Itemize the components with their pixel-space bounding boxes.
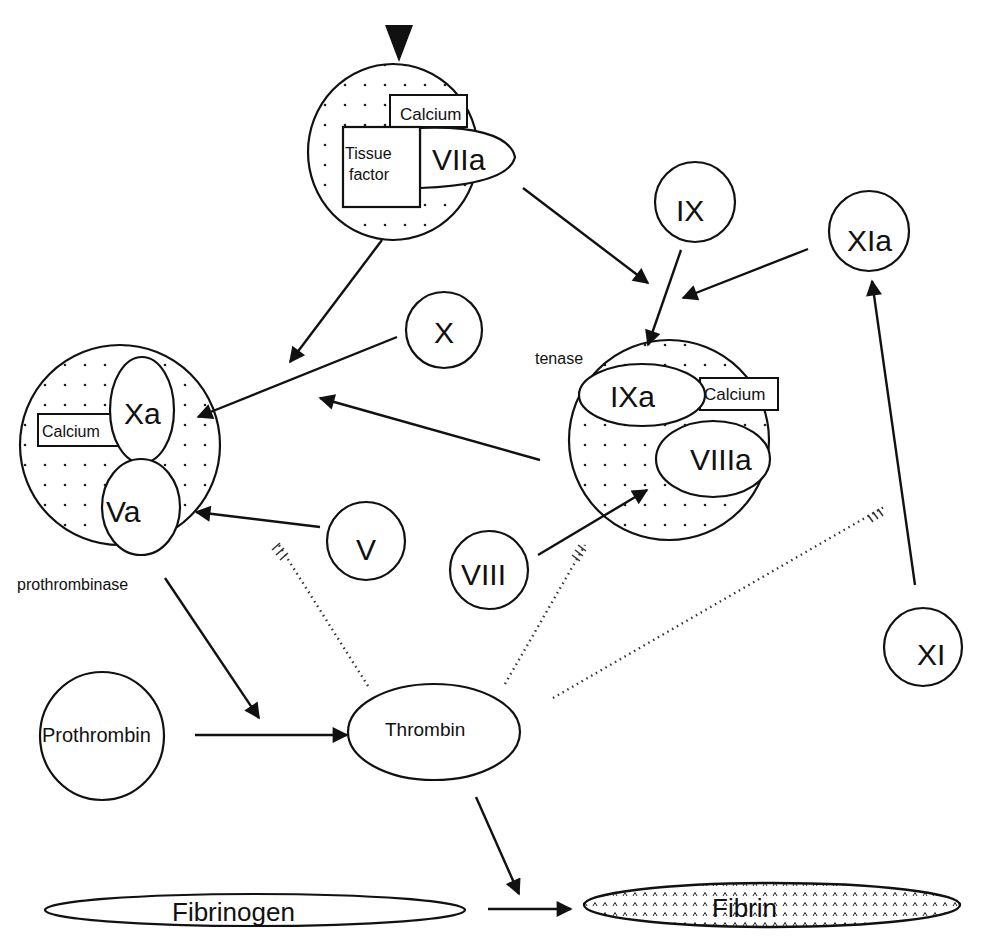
factor-xi-node[interactable]: XI: [884, 608, 962, 686]
tissue-factor-label: Tissue: [345, 145, 392, 162]
feedback-tick-xi-icon: [868, 509, 883, 522]
tf-calcium-label: Calcium: [400, 105, 461, 124]
factor-xi-label: XI: [917, 638, 945, 671]
arrow-tenase-to-prothrombinase: [320, 398, 540, 460]
prothrombinase-calcium-label: Calcium: [42, 423, 100, 440]
trigger-arrow-icon: [385, 25, 413, 62]
factor-x-node[interactable]: X: [406, 292, 482, 368]
factor-xia-node[interactable]: XIa: [829, 191, 909, 271]
factor-v-node[interactable]: V: [327, 502, 405, 580]
tissue-factor-complex[interactable]: Calcium VIIa Tissue factor: [308, 64, 515, 240]
tenase-calcium-label: Calcium: [704, 385, 765, 404]
factor-viiia-label: VIIIa: [690, 443, 752, 476]
factor-x-label: X: [434, 316, 454, 349]
factor-viia-label: VIIa: [432, 143, 486, 176]
coagulation-diagram: Calcium VIIa Tissue factor Calcium Xa Va…: [0, 0, 981, 947]
thrombin-node[interactable]: Thrombin: [348, 684, 520, 780]
prothrombin-node[interactable]: Prothrombin: [40, 672, 164, 800]
prothrombinase-label: prothrombinase: [17, 576, 128, 593]
arrow-v-to-prothrombinase: [196, 512, 320, 527]
factor-va-label: Va: [106, 495, 141, 528]
factor-v-label: V: [356, 533, 376, 566]
factor-viii-label: VIII: [461, 558, 506, 591]
fibrin-node[interactable]: Fibrin: [584, 883, 960, 927]
factor-xia-label: XIa: [847, 224, 892, 257]
factor-ixa-label: IXa: [610, 380, 655, 413]
arrow-ix-to-tenase: [648, 250, 681, 345]
arrow-x-to-prothrombinase: [198, 337, 397, 417]
feedback-tick-viii-icon: [572, 545, 586, 561]
arrow-tf-to-prothrombinase: [290, 240, 382, 362]
arrow-thrombin-to-fibrin: [476, 797, 519, 894]
fibrin-label: Fibrin: [712, 893, 777, 923]
fibrinogen-label: Fibrinogen: [172, 897, 295, 927]
arrow-xi-to-xia: [872, 281, 915, 585]
tenase-complex[interactable]: Calcium IXa VIIIa: [569, 340, 778, 540]
activation-arrows: [165, 188, 915, 909]
tissue-factor-label-2: factor: [349, 166, 390, 183]
factor-viii-node[interactable]: VIII: [450, 531, 528, 609]
tenase-label: tenase: [535, 350, 583, 367]
arrow-xia-to-tenase: [683, 249, 808, 298]
thrombin-label: Thrombin: [385, 719, 465, 740]
arrow-tf-to-tenase: [523, 188, 648, 283]
feedback-thrombin-to-xi: [553, 507, 884, 698]
prothrombinase-complex[interactable]: Calcium Xa Va: [20, 345, 220, 555]
factor-ix-label: IX: [676, 194, 704, 227]
arrow-prothrombinase-to-thrombin: [165, 578, 259, 718]
fibrinogen-node[interactable]: Fibrinogen: [45, 894, 465, 927]
prothrombin-label: Prothrombin: [42, 724, 151, 746]
factor-xa-label: Xa: [124, 397, 161, 430]
factor-ix-node[interactable]: IX: [655, 162, 735, 242]
